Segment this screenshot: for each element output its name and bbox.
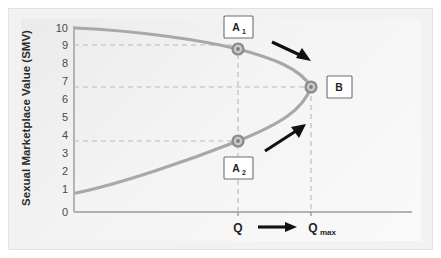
- y-tick-9: 9: [62, 39, 68, 51]
- x-label-qmax-text: Q: [308, 221, 317, 235]
- annotation-a1-label: A: [232, 21, 240, 33]
- upper-arrow-head: [296, 48, 311, 61]
- annotation-a1-subscript: 1: [242, 28, 246, 35]
- marker-a2[interactable]: [231, 134, 244, 147]
- marker-a1-inner: [236, 47, 240, 51]
- annotation-b[interactable]: B: [327, 76, 352, 98]
- curve-lower-branch: [76, 87, 311, 193]
- y-tick-6: 6: [62, 93, 68, 105]
- screenshot-root: Sexual Marketplace Value (SMV) 10 9 8 7 …: [0, 0, 441, 258]
- marker-a2-inner: [236, 139, 240, 143]
- y-tick-5: 5: [62, 111, 68, 123]
- upper-convergence-arrow: [272, 42, 311, 61]
- marker-a1[interactable]: [231, 42, 244, 55]
- lower-arrow-shaft: [265, 131, 296, 151]
- annotation-a1[interactable]: A 1: [224, 16, 253, 38]
- x-label-q-text: Q: [233, 221, 242, 235]
- y-tick-3: 3: [62, 147, 68, 159]
- lower-convergence-arrow: [265, 124, 306, 151]
- x-axis-progress-arrow: [258, 222, 297, 232]
- annotation-a2-subscript: 2: [242, 169, 246, 176]
- marker-b[interactable]: [304, 80, 317, 93]
- x-arrow-head: [285, 222, 297, 232]
- curve-upper-branch: [76, 28, 311, 87]
- marker-b-inner: [309, 85, 313, 89]
- y-tick-8: 8: [62, 57, 68, 69]
- x-label-qmax: Q max: [308, 221, 336, 237]
- y-tick-10: 10: [56, 22, 68, 34]
- upper-arrow-shaft: [272, 42, 302, 56]
- y-tick-7: 7: [62, 75, 68, 87]
- annotation-b-label: B: [335, 81, 343, 93]
- y-tick-0: 0: [62, 206, 68, 218]
- annotation-a2[interactable]: A 2: [224, 157, 253, 179]
- y-tick-2: 2: [62, 165, 68, 177]
- y-tick-1: 1: [62, 183, 68, 195]
- annotation-a2-label: A: [232, 162, 240, 174]
- y-tick-4: 4: [62, 129, 68, 141]
- x-label-qmax-subscript: max: [320, 228, 337, 237]
- x-label-q: Q: [233, 221, 242, 235]
- chart-svg: Sexual Marketplace Value (SMV) 10 9 8 7 …: [0, 0, 441, 258]
- y-axis-label: Sexual Marketplace Value (SMV): [20, 30, 32, 206]
